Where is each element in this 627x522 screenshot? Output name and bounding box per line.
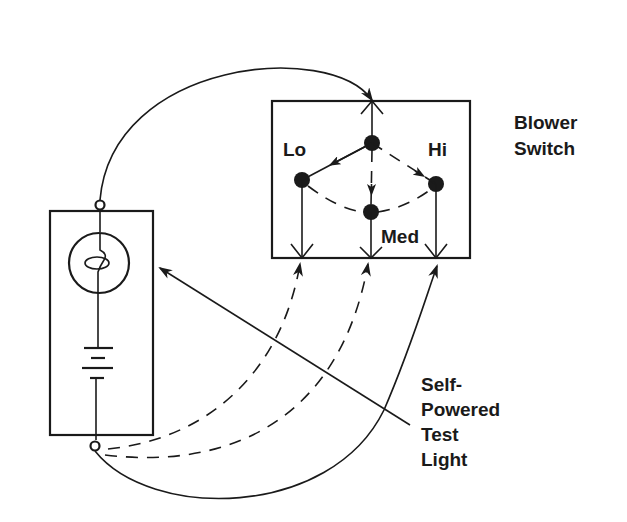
- blower-switch: Lo Hi Med: [272, 101, 470, 258]
- battery-icon: [82, 348, 113, 378]
- label-switch: Switch: [514, 138, 575, 159]
- test-light-pointer-arrow: [160, 268, 410, 425]
- test-light-top-terminal: [96, 201, 105, 210]
- lead-to-lo-terminal: [108, 264, 300, 449]
- label-self: Self-: [421, 374, 462, 395]
- label-med: Med: [381, 226, 419, 247]
- hi-path: [372, 143, 436, 184]
- diagram-canvas: Lo Hi Med Blower Switch: [0, 0, 627, 522]
- lead-to-hi-terminal: [95, 266, 437, 499]
- lead-to-med-terminal: [105, 264, 368, 458]
- label-blower: Blower: [514, 112, 578, 133]
- med-path: [371, 150, 372, 205]
- test-light-bottom-terminal: [91, 442, 100, 451]
- label-lo: Lo: [283, 139, 306, 160]
- test-light-housing: [50, 211, 153, 435]
- label-light: Light: [421, 449, 468, 470]
- label-test: Test: [421, 424, 459, 445]
- bulb-filament-icon: [85, 257, 109, 269]
- lead-to-switch-input: [100, 68, 372, 200]
- bulb-icon: [69, 233, 129, 293]
- label-powered: Powered: [421, 399, 500, 420]
- label-hi: Hi: [428, 139, 447, 160]
- test-light: [50, 201, 153, 451]
